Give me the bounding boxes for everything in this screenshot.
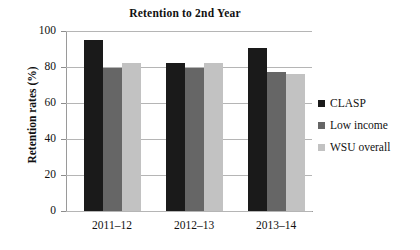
bar: [185, 68, 204, 211]
y-tick-label-80: 80: [22, 61, 56, 72]
y-tick-label-60: 60: [22, 97, 56, 108]
legend-swatch-icon: [318, 100, 325, 107]
retention-bar-chart: Retention to 2nd Year Retention rates (%…: [0, 0, 420, 250]
chart-legend: CLASPLow incomeWSU overall: [318, 92, 390, 158]
chart-title: Retention to 2nd Year: [60, 7, 310, 19]
bar-group: [248, 31, 305, 211]
legend-item: Low income: [318, 114, 390, 136]
legend-label: WSU overall: [330, 141, 390, 153]
legend-item: WSU overall: [318, 136, 390, 158]
y-tick-label-20: 20: [22, 169, 56, 180]
x-tick-label: 2011–12: [72, 219, 152, 231]
y-tick-0: [61, 211, 66, 212]
bar: [204, 63, 223, 211]
bar: [122, 63, 141, 211]
y-tick-label-100: 100: [22, 25, 56, 36]
x-tick-label: 2012–13: [154, 219, 234, 231]
bar-series-layer: [66, 31, 312, 211]
legend-swatch-icon: [318, 144, 325, 151]
bar: [103, 68, 122, 211]
y-tick-label-0: 0: [22, 205, 56, 216]
legend-label: Low income: [330, 119, 388, 131]
bar: [248, 48, 267, 211]
bar-group: [166, 31, 223, 211]
legend-item: CLASP: [318, 92, 390, 114]
bar: [84, 40, 103, 211]
legend-label: CLASP: [330, 97, 366, 109]
bar: [267, 72, 286, 211]
y-tick-label-40: 40: [22, 133, 56, 144]
legend-swatch-icon: [318, 122, 325, 129]
bar: [166, 63, 185, 211]
gridline-0: [66, 211, 312, 212]
bar-group: [84, 31, 141, 211]
bar: [286, 74, 305, 211]
x-tick-label: 2013–14: [236, 219, 316, 231]
plot-area: [66, 31, 312, 211]
